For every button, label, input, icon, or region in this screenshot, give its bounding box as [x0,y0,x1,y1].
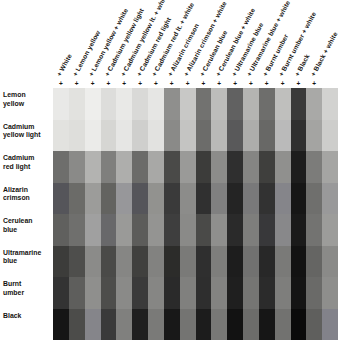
color-swatch [164,277,180,309]
color-swatch [164,309,180,341]
color-swatch [275,183,291,215]
color-swatch [53,277,69,309]
row-label: Alizarincrimson [3,186,53,203]
color-swatch [196,120,212,152]
column-tick-plus-icon: + [231,81,239,88]
color-swatch [306,183,322,215]
color-swatch [116,120,132,152]
column-tick-plus-icon: + [73,81,81,88]
row-label-line: Cadmium [3,154,53,163]
color-swatch [196,183,212,215]
color-swatch [101,183,117,215]
color-swatch [164,246,180,278]
column-header-area: + White++ Lemon yellow++ Lemon yellow + … [0,0,353,88]
color-swatch [291,309,307,341]
color-swatch [101,120,117,152]
color-swatch [101,246,117,278]
color-swatch [53,214,69,246]
color-swatch [116,309,132,341]
color-swatch [85,151,101,183]
color-swatch [196,309,212,341]
color-swatch [53,246,69,278]
swatch-row [53,120,338,152]
color-swatch [275,309,291,341]
color-swatch [275,88,291,120]
color-swatch [259,88,275,120]
color-swatch [85,246,101,278]
color-swatch [227,309,243,341]
color-swatch [322,183,338,215]
color-swatch [306,309,322,341]
color-swatch [180,309,196,341]
color-swatch [132,120,148,152]
color-swatch [164,183,180,215]
row-label-line: red light [3,163,53,172]
color-swatch [306,214,322,246]
color-swatch [275,151,291,183]
color-swatch [259,246,275,278]
column-tick-plus-icon: + [152,81,160,88]
color-swatch [101,214,117,246]
color-swatch [259,309,275,341]
row-label: Cadmiumred light [3,154,53,171]
color-swatch [69,277,85,309]
color-swatch [148,88,164,120]
color-swatch [148,120,164,152]
row-label-line: blue [3,257,53,266]
row-label-line: Lemon [3,91,53,100]
color-swatch [275,214,291,246]
color-swatch [291,183,307,215]
color-swatch [148,246,164,278]
color-swatch [53,151,69,183]
color-swatch [69,214,85,246]
color-mixing-chart: + White++ Lemon yellow++ Lemon yellow + … [0,0,353,359]
color-swatch [227,277,243,309]
row-label: Black [3,312,53,321]
color-swatch [180,246,196,278]
color-swatch [243,309,259,341]
row-label-line: Cadmium [3,123,53,132]
color-swatch [69,309,85,341]
column-header: + Black [294,54,311,78]
color-swatch [69,183,85,215]
color-swatch [53,88,69,120]
color-swatch [211,120,227,152]
color-swatch [211,309,227,341]
color-swatch [101,277,117,309]
row-label-line: Cerulean [3,217,53,226]
color-swatch [69,151,85,183]
color-swatch [53,183,69,215]
row-label-line: yellow [3,100,53,109]
color-swatch [116,277,132,309]
color-swatch [227,88,243,120]
column-header: + Black + white [310,32,339,78]
row-label-line: yellow light [3,131,53,140]
color-swatch [322,88,338,120]
color-swatch [322,277,338,309]
color-swatch [180,120,196,152]
color-swatch [180,88,196,120]
color-swatch [101,309,117,341]
color-swatch [164,151,180,183]
color-swatch [148,183,164,215]
swatch-row [53,88,338,120]
column-tick-plus-icon: + [279,81,287,88]
column-tick-plus-icon: + [310,81,318,88]
color-swatch [322,246,338,278]
color-swatch [180,183,196,215]
swatch-row [53,309,338,341]
color-swatch [227,183,243,215]
color-swatch [132,214,148,246]
color-swatch [275,277,291,309]
color-swatch [101,151,117,183]
color-swatch [243,214,259,246]
color-swatch [180,214,196,246]
row-label: Burntumber [3,280,53,297]
color-swatch [243,120,259,152]
column-tick-plus-icon: + [120,81,128,88]
column-tick-plus-icon: + [263,81,271,88]
column-tick-plus-icon: + [184,81,192,88]
color-swatch [85,88,101,120]
color-swatch [243,88,259,120]
color-swatch [85,120,101,152]
